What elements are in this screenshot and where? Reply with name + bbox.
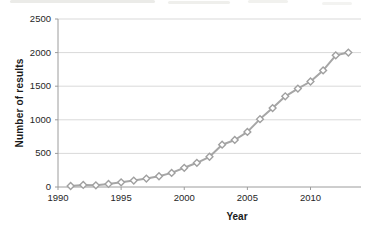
svg-text:2000: 2000 [30,47,51,58]
svg-text:1995: 1995 [111,192,132,203]
svg-text:1000: 1000 [30,114,51,125]
tick-labels: 0500100015002000250019901995200020052010 [30,13,321,203]
y-axis-title: Number of results [14,59,25,148]
svg-text:1500: 1500 [30,80,51,91]
chart-svg: 0500100015002000250019901995200020052010 [0,0,365,236]
series-line [71,53,349,186]
series-markers [67,49,352,189]
line-chart-figure: 0500100015002000250019901995200020052010… [0,0,365,236]
svg-text:1990: 1990 [47,192,68,203]
axis-lines [58,19,361,187]
svg-text:500: 500 [35,147,51,158]
svg-text:0: 0 [46,181,51,192]
svg-text:2005: 2005 [237,192,258,203]
x-axis-title: Year [0,211,365,222]
svg-text:2010: 2010 [300,192,321,203]
x-axis-title-text: Year [226,211,247,222]
gridlines [58,19,361,153]
svg-text:2500: 2500 [30,13,51,24]
svg-text:2000: 2000 [174,192,195,203]
